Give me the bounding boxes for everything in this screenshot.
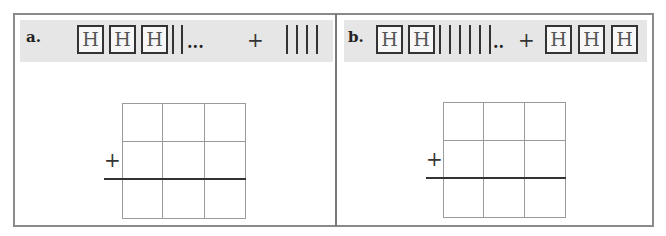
hundreds-block: H [545,25,572,54]
hundreds-block: H [611,25,638,54]
grid-plus-sign: + [104,150,121,170]
tens-stick [439,25,441,54]
tens-stick [479,25,481,54]
tens-stick [316,25,318,54]
tens-stick [449,25,451,54]
sum-line [426,177,566,179]
hundreds-block: H [77,25,104,54]
hundreds-block: H [141,25,168,54]
grid-col-line [483,102,484,218]
tens-stick [306,25,308,54]
panel-a-label: a. [26,28,41,46]
tens-stick [181,25,183,54]
grid-col-line [162,103,163,219]
hundreds-block: H [578,25,605,54]
grid-col-line [204,103,205,219]
plus-operator: + [518,30,535,50]
sum-line [104,178,246,180]
tens-stick [172,25,174,54]
tens-stick [459,25,461,54]
hundreds-block: H [109,25,136,54]
tens-stick [286,25,288,54]
grid-col-line [524,102,525,218]
grid-outline [122,103,246,219]
grid-outline [443,102,566,218]
panel-divider [335,13,337,227]
hundreds-block: H [408,25,435,54]
grid-row-line [122,141,246,142]
ones-dots: .. [493,33,504,52]
hundreds-block: H [376,25,403,54]
tens-stick [296,25,298,54]
panel-b-label: b. [348,28,364,46]
grid-plus-sign: + [426,149,443,169]
ones-dots: ... [187,33,204,52]
tens-stick [469,25,471,54]
plus-operator: + [247,30,264,50]
tens-stick [489,25,491,54]
grid-row-line [443,140,566,141]
